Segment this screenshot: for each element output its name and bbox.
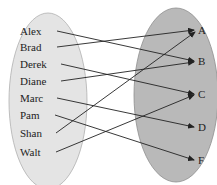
label-a: A [198, 24, 206, 36]
mapping-diagram: Alex Brad Derek Diane Marc Pam Shan Walt… [0, 0, 217, 185]
label-d: D [198, 121, 206, 133]
label-b: B [198, 55, 205, 67]
label-pam: Pam [20, 109, 40, 121]
label-brad: Brad [20, 41, 42, 53]
label-f: F [198, 154, 204, 166]
label-derek: Derek [20, 58, 47, 70]
label-marc: Marc [20, 92, 43, 104]
label-shan: Shan [20, 127, 43, 139]
label-c: C [198, 88, 205, 100]
label-walt: Walt [20, 146, 41, 158]
label-diane: Diane [20, 75, 46, 87]
label-alex: Alex [20, 25, 42, 37]
